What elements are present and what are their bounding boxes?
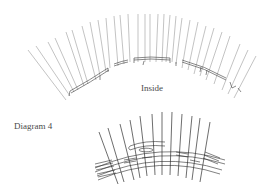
bottom-weave-diagram bbox=[0, 0, 262, 193]
diagram-caption: Diagram 4 bbox=[14, 121, 52, 131]
inside-label: Inside bbox=[141, 83, 163, 93]
figure-canvas: Inside Diagram 4 bbox=[0, 0, 262, 193]
